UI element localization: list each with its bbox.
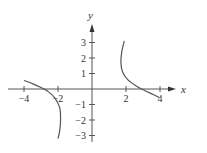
x-tick-label: −4 bbox=[19, 93, 30, 104]
y-tick-label: −3 bbox=[75, 130, 86, 141]
y-tick-label: 1 bbox=[81, 68, 86, 79]
x-axis-label: x bbox=[180, 83, 186, 95]
y-tick-label: −2 bbox=[75, 115, 86, 126]
x-tick-label: 2 bbox=[124, 93, 129, 104]
x-tick-label: 4 bbox=[158, 93, 163, 104]
y-axis-label: y bbox=[87, 9, 93, 21]
chart: −4−224 321−1−2−3 x y bbox=[0, 0, 207, 153]
x-axis-arrow-icon bbox=[168, 87, 176, 92]
y-tick-label: 2 bbox=[81, 53, 86, 64]
y-tick-label: 3 bbox=[81, 37, 86, 48]
y-tick-label: −1 bbox=[75, 99, 86, 110]
y-axis-arrow-icon bbox=[90, 24, 95, 32]
